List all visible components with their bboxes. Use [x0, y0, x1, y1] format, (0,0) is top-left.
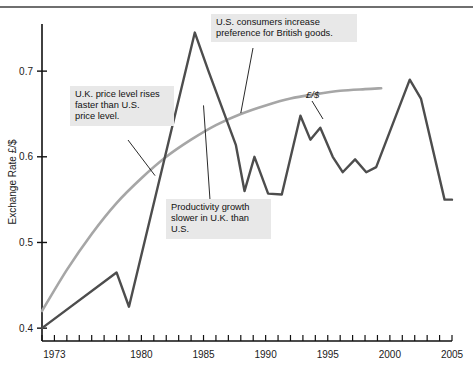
y-axis-tick-labels: 0.40.50.60.7 — [19, 66, 33, 334]
annotation-uk-price-level: U.K. price level rises faster than U.S. … — [70, 86, 174, 126]
x-tick-label: 2000 — [379, 349, 402, 360]
series-label-pound-dollar: £/$ — [305, 89, 320, 100]
x-axis-tick-labels: 1973198019851990199520002005 — [43, 349, 463, 360]
y-tick-label: 0.4 — [19, 323, 33, 334]
x-tick-label: 1995 — [317, 349, 340, 360]
x-tick-label: 1990 — [255, 349, 278, 360]
exchange-rate-line — [42, 33, 452, 329]
y-tick-label: 0.6 — [19, 151, 33, 162]
annotation-productivity-growth: Productivity growth slower in U.K. than … — [166, 199, 271, 239]
x-tick-label: 1985 — [192, 349, 215, 360]
x-tick-label: 1980 — [130, 349, 153, 360]
x-tick-label: 2005 — [441, 349, 464, 360]
exchange-rate-chart-figure: 0.40.50.60.7 197319801985199019952000200… — [0, 0, 473, 372]
x-axis-ticks — [42, 335, 452, 341]
y-tick-label: 0.7 — [19, 66, 33, 77]
y-axis-title: Exchange Rate £/$ — [7, 139, 18, 224]
annotation-us-consumers: U.S. consumers increase preference for B… — [211, 14, 357, 42]
x-tick-label: 1973 — [43, 349, 66, 360]
y-tick-label: 0.5 — [19, 237, 33, 248]
chart-canvas: 0.40.50.60.7 197319801985199019952000200… — [0, 0, 473, 372]
